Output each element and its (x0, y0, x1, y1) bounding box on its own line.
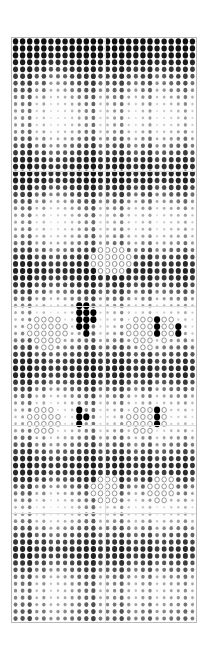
halftone-dot-canvas (12, 38, 196, 622)
halftone-plot-frame (11, 37, 197, 623)
screenshot-root (0, 0, 208, 650)
